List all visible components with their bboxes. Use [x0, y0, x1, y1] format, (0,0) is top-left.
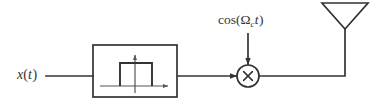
diagram-svg: [0, 0, 378, 111]
input-signal-paren-close: ): [32, 67, 37, 82]
edge-multiplier-to-antenna: [259, 29, 345, 76]
carrier-func: cos: [218, 12, 236, 27]
filter-plot-rect-pulse: [120, 63, 152, 86]
carrier-label: cos(Ωct): [218, 13, 263, 29]
input-signal-label: x(t): [17, 68, 37, 82]
diagram-canvas: x(t) cos(Ωct): [0, 0, 378, 111]
carrier-omega-symbol: Ω: [241, 12, 251, 27]
carrier-paren-close: ): [259, 12, 264, 27]
antenna-icon: [322, 3, 368, 29]
